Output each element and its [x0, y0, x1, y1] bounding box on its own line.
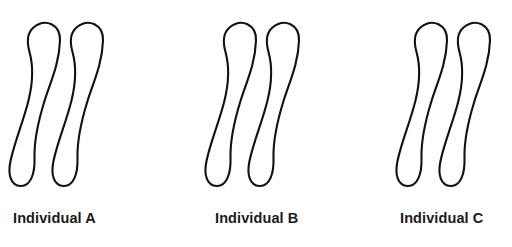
chromosome-pair-individual-c	[396, 23, 490, 186]
chromosome-pair-individual-b	[205, 23, 299, 186]
label-individual-b: Individual B	[215, 211, 298, 226]
chromosome-pair-individual-a	[9, 23, 103, 186]
label-individual-a: Individual A	[13, 211, 96, 226]
label-individual-c: Individual C	[400, 211, 483, 226]
